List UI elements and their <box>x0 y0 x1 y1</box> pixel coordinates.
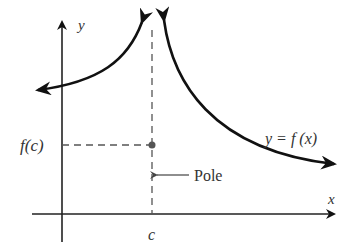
x-axis-label: x <box>327 191 335 207</box>
pole-diagram: y x f(c) c Pole y = f (x) <box>0 0 356 251</box>
fc-point <box>149 142 156 149</box>
function-label: y = f (x) <box>263 130 317 148</box>
pole-label: Pole <box>194 167 222 184</box>
c-label: c <box>148 226 155 243</box>
diagram-canvas: y x f(c) c Pole y = f (x) <box>0 0 356 251</box>
y-axis-label: y <box>76 17 85 33</box>
fc-label: f(c) <box>20 136 44 155</box>
curve-left-branch <box>38 22 142 90</box>
